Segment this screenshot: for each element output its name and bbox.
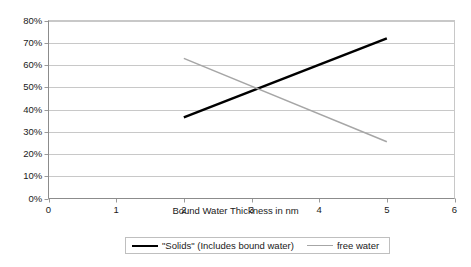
legend-item-solids: "Solids" (Includes bound water)	[132, 240, 294, 251]
y-tick-label: 40%	[6, 104, 42, 115]
series-line-free-water	[184, 58, 387, 141]
legend-label-free-water: free water	[337, 240, 379, 251]
legend-swatch-free-water-icon	[307, 245, 333, 246]
x-axis-title: Bound Water Thickness in nm	[0, 205, 471, 216]
plot-frame	[49, 21, 455, 199]
y-tick-label: 60%	[6, 59, 42, 70]
series-line-solids	[184, 38, 387, 117]
legend-item-free-water: free water	[307, 240, 379, 251]
y-tick-label: 30%	[6, 126, 42, 137]
y-tick-label: 50%	[6, 81, 42, 92]
y-tick-label: 20%	[6, 148, 42, 159]
y-tick-label: 0%	[6, 193, 42, 204]
y-tick-marks	[45, 22, 49, 200]
y-tick-label: 10%	[6, 170, 42, 181]
legend-label-solids: "Solids" (Includes bound water)	[162, 240, 294, 251]
gridlines	[49, 22, 455, 177]
x-tick-marks	[50, 199, 456, 203]
legend-swatch-solids-icon	[132, 245, 158, 247]
y-tick-label: 70%	[6, 37, 42, 48]
chart-legend: "Solids" (Includes bound water) free wat…	[125, 237, 390, 254]
chart-container: 0%10%20%30%40%50%60%70%80% 0123456 Bound…	[0, 0, 471, 267]
plot-area	[0, 0, 471, 267]
series-lines	[184, 38, 387, 141]
y-tick-label: 80%	[6, 15, 42, 26]
